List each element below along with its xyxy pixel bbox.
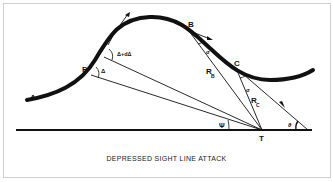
velocity-arrow — [279, 101, 285, 108]
sight-line-p — [91, 75, 262, 130]
angle-arc-theta — [296, 121, 298, 130]
angle-label-delta: Δ — [101, 68, 106, 74]
angle-arc-sigma-c — [240, 76, 245, 78]
angle-arc-psi — [228, 120, 229, 130]
angle-label-psi: Ψ — [219, 122, 225, 129]
tangent-arrowhead-p2 — [125, 12, 130, 17]
point-label-p: P — [82, 65, 88, 74]
point-label-b: B — [188, 20, 194, 29]
range-label-rc-sub: C — [256, 102, 260, 108]
range-label-rb-sub: B — [211, 73, 215, 79]
point-label-t: T — [259, 134, 264, 143]
point-label-c: C — [234, 59, 240, 68]
diagram-caption: DEPRESSED SIGHT LINE ATTACK — [0, 155, 333, 162]
angle-arc-delta-plus — [109, 49, 113, 60]
point-label-a: A — [30, 93, 36, 102]
angle-label-delta-plus: Δ+dΔ — [117, 51, 132, 57]
angle-label-theta: θ — [288, 122, 292, 128]
tangent-arrowhead-b — [207, 36, 213, 40]
angle-label-sigma-c: σ — [246, 87, 250, 93]
angle-label-sigma-b: σ — [206, 49, 210, 55]
